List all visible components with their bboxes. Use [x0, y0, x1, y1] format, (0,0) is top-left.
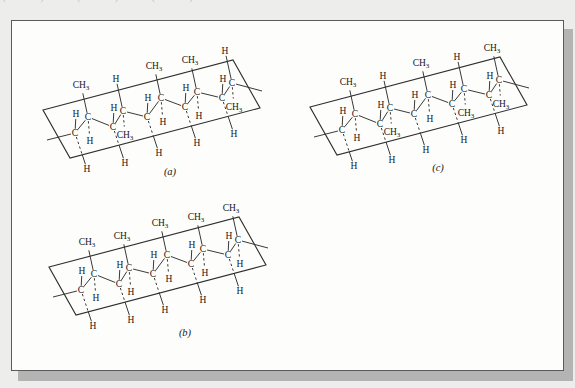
- atom-label: H: [237, 259, 244, 269]
- diagram-caption: (b): [179, 327, 192, 339]
- atom-label: H: [450, 80, 457, 90]
- atom-label: C: [72, 128, 78, 138]
- atom-label: C: [352, 109, 358, 119]
- atom-label: C: [425, 90, 431, 100]
- atom-labels: CHHCCH3HCHHCHCH3CHHCCH3HCHHCHCH3CHHCCH3C…: [339, 43, 510, 171]
- atom-label: H: [145, 93, 152, 103]
- atom-label: CH3: [79, 237, 96, 249]
- atom-label: C: [158, 93, 164, 103]
- atom-label: H: [189, 240, 196, 250]
- atom-label: H: [237, 286, 244, 296]
- atom-label: H: [160, 117, 167, 127]
- atom-label: C: [116, 279, 122, 289]
- atom-label: C: [182, 102, 188, 112]
- atom-label: H: [427, 114, 434, 124]
- atom-label: CH3: [384, 127, 401, 139]
- atom-label: C: [461, 84, 467, 94]
- atom-label: C: [78, 285, 84, 295]
- atom-label: H: [231, 129, 238, 139]
- atom-label: H: [79, 266, 86, 276]
- atom-label: H: [454, 52, 461, 62]
- atom-label: C: [110, 122, 116, 132]
- atom-label: H: [226, 231, 233, 241]
- atom-label: H: [423, 145, 430, 155]
- atom-label: H: [498, 126, 505, 136]
- atom-label: C: [387, 103, 393, 113]
- atom-label: H: [461, 135, 468, 145]
- atom-label: H: [122, 158, 129, 168]
- atom-label: H: [84, 164, 91, 174]
- atom-label: CH3: [223, 203, 240, 215]
- atom-label: C: [411, 109, 417, 119]
- atom-label: H: [156, 148, 163, 158]
- polymer-tacticity-figure: CHHCCH3HCHHCHCH3CHHCCH3HCHHCCH3HCHHCHCH3…: [0, 0, 575, 388]
- scanned-figure-page: ( ) ( ) ( ) CHHCCH3HCHHCHCH3CHHCCH3HCHHC…: [0, 0, 575, 388]
- atom-label: C: [194, 87, 200, 97]
- atom-label: H: [380, 71, 387, 81]
- atom-label: CH3: [484, 43, 501, 55]
- atom-label: H: [183, 83, 190, 93]
- atom-label: H: [128, 287, 135, 297]
- diagram-caption: (a): [164, 166, 177, 178]
- atom-label: CH3: [413, 58, 430, 70]
- atom-label: H: [378, 100, 385, 110]
- atom-label: H: [194, 138, 201, 148]
- atom-label: C: [126, 263, 132, 273]
- atom-label: C: [339, 125, 345, 135]
- atom-label: H: [389, 155, 396, 165]
- atom-label: H: [117, 260, 124, 270]
- atom-label: H: [200, 295, 207, 305]
- atom-label: H: [196, 111, 203, 121]
- atom-label: C: [449, 99, 455, 109]
- atom-label: C: [120, 106, 126, 116]
- atom-label: CH3: [188, 212, 205, 224]
- atom-label: H: [113, 74, 120, 84]
- atom-label: CH3: [146, 61, 163, 73]
- atom-label: H: [487, 71, 494, 81]
- atom-label: H: [73, 109, 80, 119]
- atom-label: H: [220, 74, 227, 84]
- atom-label: C: [225, 250, 231, 260]
- diagram-caption: (c): [432, 162, 444, 174]
- atom-label: H: [128, 315, 135, 325]
- atom-label: H: [90, 321, 97, 331]
- atom-label: C: [91, 269, 97, 279]
- atom-label: CH3: [73, 80, 90, 92]
- atom-label: C: [200, 244, 206, 254]
- atom-label: C: [235, 235, 241, 245]
- atom-label: CH3: [182, 55, 199, 67]
- atom-label: CH3: [152, 218, 169, 230]
- atom-labels: CHHCCH3HCHHCHCH3CHHCCH3HCHHCCH3HCHHCHCH3: [72, 46, 243, 174]
- atom-label: H: [351, 161, 358, 171]
- atom-label: C: [150, 269, 156, 279]
- diagram-b: CHHCCH3HCHHCCH3HCHHCCH3HCHHCCH3HCHHCCH3H…: [49, 203, 268, 339]
- atom-label: H: [93, 293, 100, 303]
- atom-label: C: [229, 78, 235, 88]
- atom-label: H: [412, 90, 419, 100]
- atom-label: H: [166, 274, 173, 284]
- atom-label: CH3: [340, 77, 357, 89]
- atom-label: CH3: [226, 102, 243, 114]
- atom-label: C: [164, 250, 170, 260]
- atom-label: C: [188, 259, 194, 269]
- atom-label: C: [144, 112, 150, 122]
- diagram-a: CHHCCH3HCHHCHCH3CHHCCH3HCHHCCH3HCHHCHCH3…: [43, 46, 262, 178]
- atom-label: H: [354, 133, 361, 143]
- atom-label: CH3: [117, 130, 134, 142]
- atom-label: C: [85, 112, 91, 122]
- atom-label: H: [162, 305, 169, 315]
- atom-label: C: [496, 75, 502, 85]
- atom-label: H: [87, 136, 94, 146]
- atom-label: CH3: [114, 231, 131, 243]
- atom-label: C: [486, 90, 492, 100]
- atom-label: H: [111, 103, 118, 113]
- atom-label: H: [151, 250, 158, 260]
- diagram-c: CHHCCH3HCHHCHCH3CHHCCH3HCHHCHCH3CHHCCH3C…: [310, 43, 529, 174]
- atom-label: H: [222, 46, 229, 56]
- atom-label: H: [202, 268, 209, 278]
- atom-label: C: [219, 93, 225, 103]
- atom-label: C: [377, 119, 383, 129]
- atom-label: H: [340, 106, 347, 116]
- atom-label: CH3: [458, 108, 475, 120]
- atom-label: CH3: [493, 99, 510, 111]
